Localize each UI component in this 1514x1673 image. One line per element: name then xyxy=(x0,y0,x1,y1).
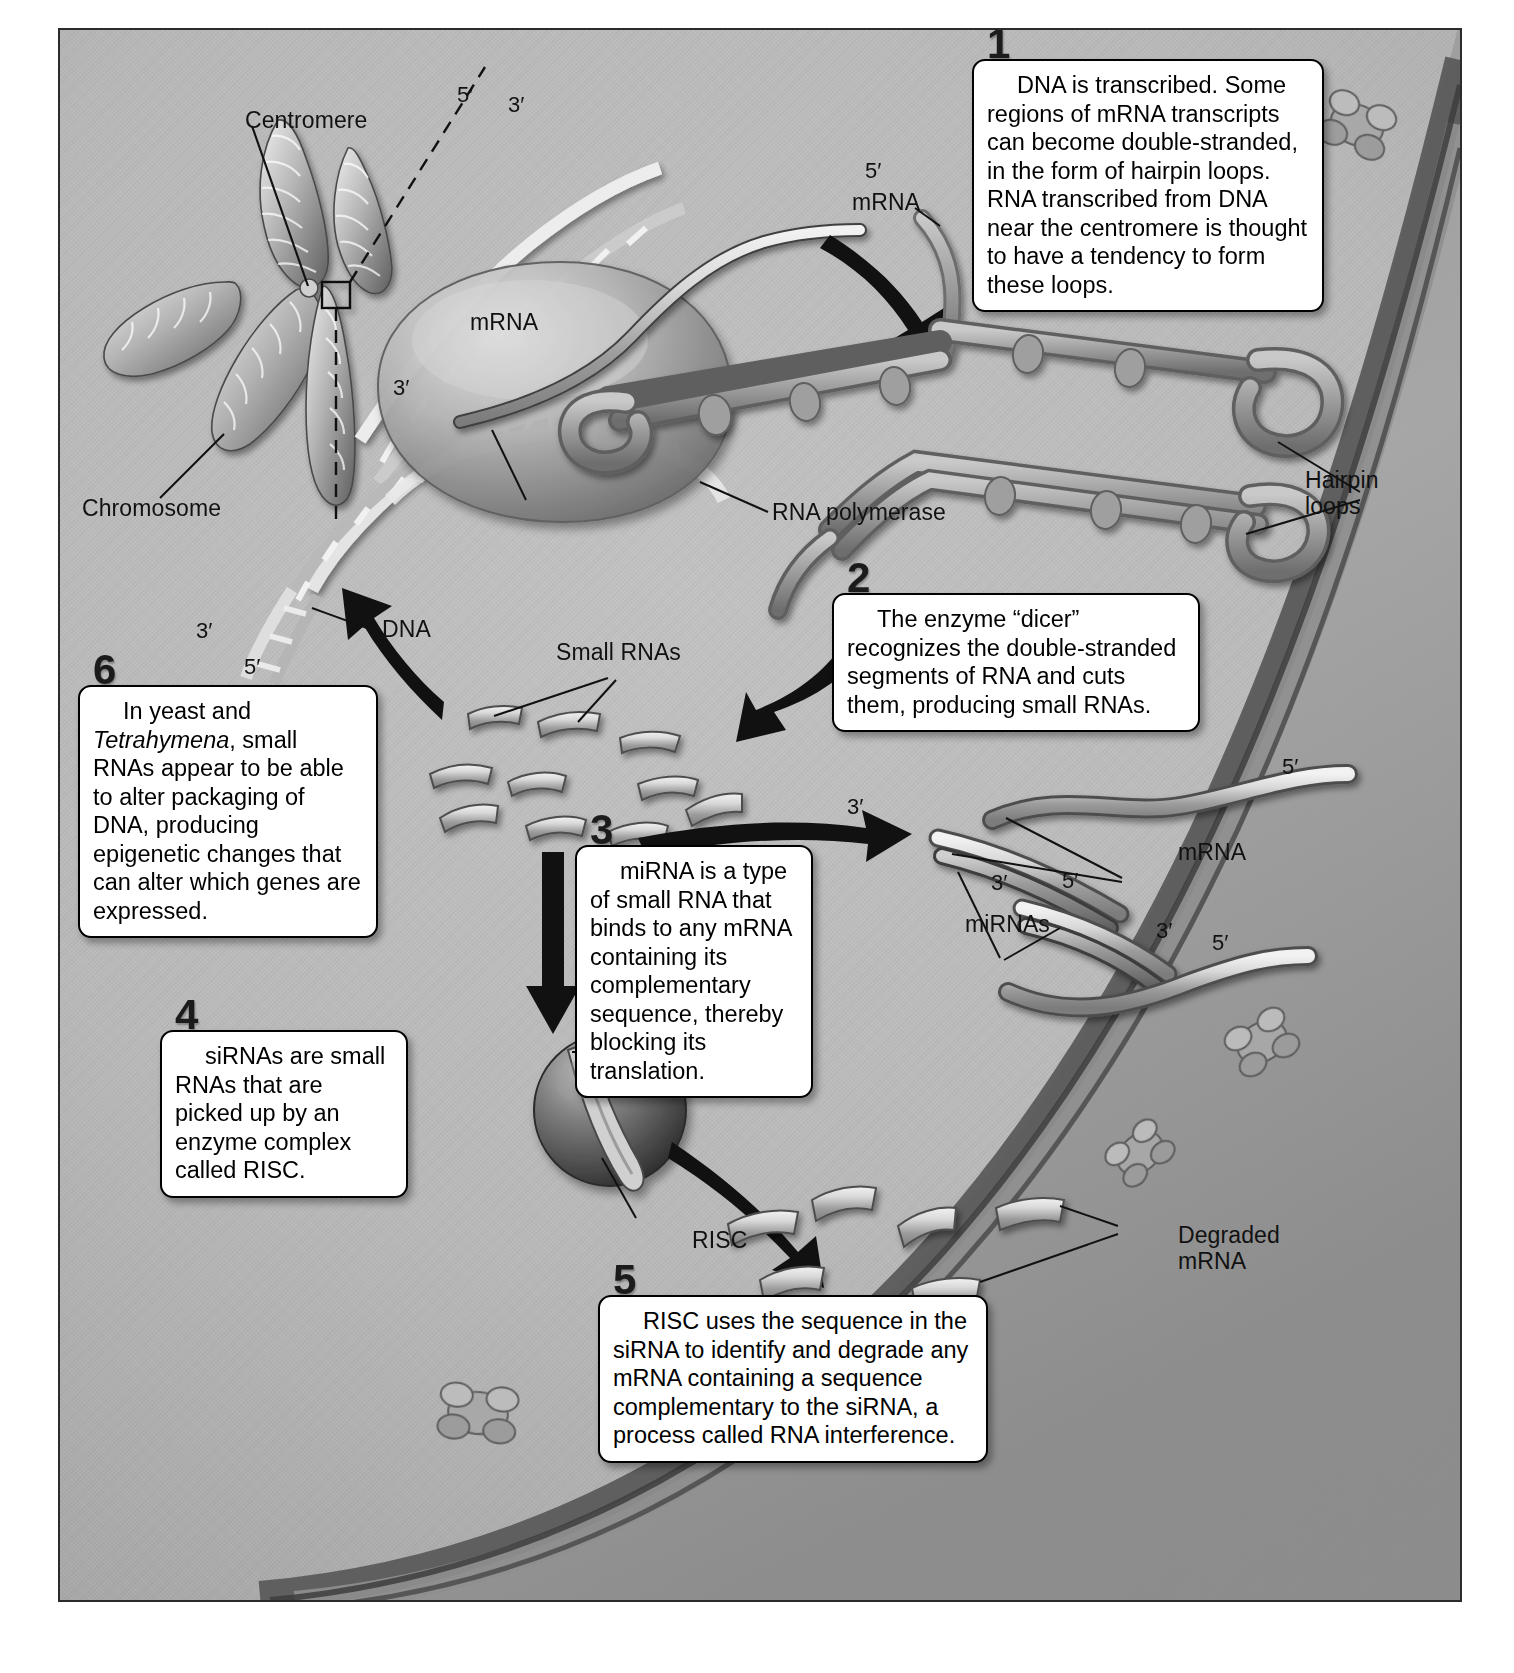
leader-centromere xyxy=(252,126,308,286)
leader-chromosome xyxy=(160,434,224,498)
callout-4[interactable]: 4 siRNAs are small RNAs that are picked … xyxy=(160,1030,408,1198)
leader-mrna-pair xyxy=(952,818,1122,882)
callout-6-text-after: , small RNAs appear to be able to alter … xyxy=(93,727,361,924)
callout-2[interactable]: 2 The enzyme “dicer” recognizes the doub… xyxy=(832,593,1200,732)
arrow-5 xyxy=(668,1142,824,1288)
leader-risc xyxy=(602,1158,636,1218)
callout-6-text: In yeast and Tetrahymena, small RNAs app… xyxy=(93,697,363,925)
label-mrna-pair: mRNA xyxy=(1178,840,1246,866)
label-dna: DNA xyxy=(382,617,431,643)
rna-polymerase-illustration xyxy=(378,262,732,522)
callout-1-text: DNA is transcribed. Some regions of mRNA… xyxy=(987,71,1309,299)
leader-mrna-transcript xyxy=(492,430,526,500)
leader-small-rnas xyxy=(494,678,616,722)
dna-helix xyxy=(246,168,724,684)
callout-3-number: 3 xyxy=(590,809,613,851)
label-degraded-mrna: Degraded mRNA xyxy=(1178,1222,1280,1274)
prime-dna-top-5: 5′ xyxy=(457,82,473,108)
callout-3-text: miRNA is a type of small RNA that binds … xyxy=(590,857,798,1085)
label-mirnas: miRNAs xyxy=(965,912,1050,938)
callout-6-text-italic: Tetrahymena xyxy=(93,727,229,753)
prime-mirna-mid-5: 5′ xyxy=(1062,868,1078,894)
prime-dna-top-3: 3′ xyxy=(508,92,524,118)
label-chromosome: Chromosome xyxy=(82,496,221,522)
callout-2-number: 2 xyxy=(847,557,870,599)
degraded-mrna-fragments xyxy=(728,1187,1064,1311)
label-rna-polymerase: RNA polymerase xyxy=(772,500,946,526)
label-mrna-hairpin: mRNA xyxy=(852,190,920,216)
callout-1-number: 1 xyxy=(987,28,1010,65)
callout-6-text-before: In yeast and xyxy=(123,698,251,724)
label-small-rnas: Small RNAs xyxy=(556,640,681,666)
leader-dna xyxy=(312,608,378,632)
label-mrna-transcript: mRNA xyxy=(470,310,538,336)
callout-5-text: RISC uses the sequence in the siRNA to i… xyxy=(613,1307,973,1450)
label-hairpin-loops: Hairpin loops xyxy=(1305,467,1379,519)
zoom-leader-lines xyxy=(336,67,485,550)
prime-mirna-mid-3: 3′ xyxy=(991,870,1007,896)
leader-rna-polymerase xyxy=(700,482,768,512)
leader-degraded-mrna xyxy=(980,1206,1118,1282)
arrow-1 xyxy=(820,235,944,360)
arrow-4 xyxy=(526,852,580,1034)
prime-mrna-upper-3: 3′ xyxy=(847,794,863,820)
label-risc: RISC xyxy=(692,1228,747,1254)
prime-mirna-low-3: 3′ xyxy=(1156,918,1172,944)
callout-5-number: 5 xyxy=(613,1259,636,1301)
prime-polymerase-3: 3′ xyxy=(393,375,409,401)
chromosome-illustration xyxy=(104,120,392,505)
callout-4-number: 4 xyxy=(175,994,198,1036)
callout-6-number: 6 xyxy=(93,649,116,691)
prime-mrna-transcript-5: 5′ xyxy=(865,158,881,184)
label-centromere: Centromere xyxy=(245,108,367,134)
callout-4-text: siRNAs are small RNAs that are picked up… xyxy=(175,1042,393,1185)
prime-dna-bottom-3: 3′ xyxy=(196,618,212,644)
callout-6[interactable]: 6 In yeast and Tetrahymena, small RNAs a… xyxy=(78,685,378,938)
prime-mrna-upper-5: 5′ xyxy=(1282,754,1298,780)
callout-2-text: The enzyme “dicer” recognizes the double… xyxy=(847,605,1185,719)
cell-diagram: Centromere Chromosome 5′ 3′ 5′ mRNA 3′ R… xyxy=(58,28,1462,1602)
figure-canvas: Centromere Chromosome 5′ 3′ 5′ mRNA 3′ R… xyxy=(0,0,1514,1673)
prime-mrna-low-5: 5′ xyxy=(1212,930,1228,956)
callout-5[interactable]: 5 RISC uses the sequence in the siRNA to… xyxy=(598,1295,988,1463)
small-rna-fragments xyxy=(430,706,742,846)
callout-1[interactable]: 1 DNA is transcribed. Some regions of mR… xyxy=(972,59,1324,312)
prime-dna-bottom-5: 5′ xyxy=(244,654,260,680)
callout-3[interactable]: 3 miRNA is a type of small RNA that bind… xyxy=(575,845,813,1098)
